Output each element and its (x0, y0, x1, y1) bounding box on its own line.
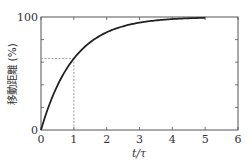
x-tick-label: 0 (38, 133, 45, 146)
y-tick-label: 0 (31, 124, 38, 137)
x-tick-label: 3 (136, 133, 143, 146)
x-tick-label: 6 (235, 133, 242, 146)
y-tick-labels: 0100 (17, 11, 38, 137)
x-axis-title: t/τ (132, 147, 147, 160)
guide-lines (41, 59, 74, 130)
tick-marks (41, 17, 238, 130)
y-axis-title: 移動距離 (%) (6, 43, 18, 105)
y-tick-label: 100 (17, 11, 38, 24)
x-tick-labels: 0123456 (38, 133, 242, 146)
x-tick-label: 4 (169, 133, 176, 146)
data-curve (41, 18, 205, 130)
x-tick-label: 5 (202, 133, 209, 146)
plot-frame (41, 17, 238, 130)
x-tick-label: 2 (103, 133, 110, 146)
x-tick-label: 1 (70, 133, 77, 146)
chart: 0123456 0100 t/τ 移動距離 (%) (0, 0, 252, 166)
